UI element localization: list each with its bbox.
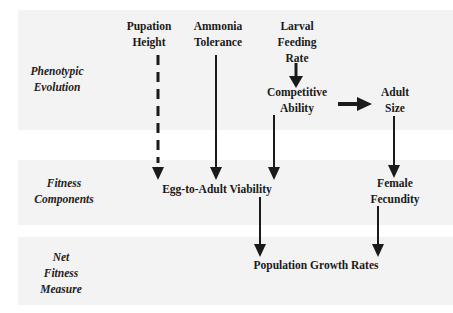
arrow-fecundity-to-popgrowth <box>372 206 384 257</box>
arrow-competitive-to-viability <box>268 115 280 180</box>
arrow-adultsize-to-fecundity <box>388 116 400 178</box>
arrow-pupation-to-viability <box>152 55 164 180</box>
arrow-viability-to-popgrowth <box>254 197 266 257</box>
arrow-larval-to-competitive <box>289 63 303 88</box>
arrow-ammonia-to-viability <box>210 55 222 180</box>
arrow-competitive-to-adultsize <box>338 97 372 111</box>
arrows-layer <box>0 0 453 313</box>
